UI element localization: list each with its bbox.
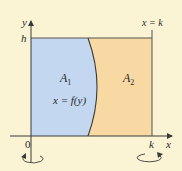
y-axis-label: y bbox=[21, 16, 27, 28]
x-axis-label: x bbox=[165, 138, 171, 150]
line-label-x-equals-k: x = k bbox=[141, 17, 163, 28]
curve-label: x = f(y) bbox=[52, 94, 86, 107]
region-a2 bbox=[88, 38, 152, 136]
tick-label-h: h bbox=[21, 32, 27, 44]
diagram-canvas: y h x = k A1 A2 x = f(y) 0 k x bbox=[0, 0, 182, 171]
tick-label-k: k bbox=[149, 138, 155, 150]
region-a1 bbox=[31, 38, 97, 136]
rotation-arrow-x-equals-k-icon bbox=[137, 152, 163, 162]
rotation-arrow-y-axis-icon bbox=[21, 153, 43, 163]
origin-label: 0 bbox=[25, 138, 31, 150]
